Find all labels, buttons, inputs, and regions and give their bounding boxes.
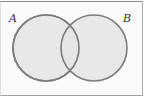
- set-a-label: A: [8, 12, 17, 25]
- set-b-label: B: [122, 12, 131, 25]
- venn-diagram: A B: [0, 0, 144, 99]
- set-b-circle: [61, 15, 127, 81]
